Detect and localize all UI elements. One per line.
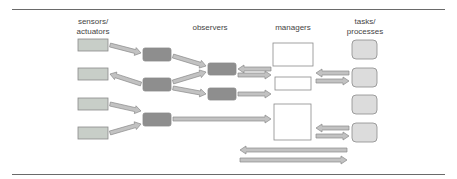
arrow xyxy=(238,90,271,98)
arrow xyxy=(172,54,206,68)
observer-node xyxy=(208,63,236,75)
arrow xyxy=(110,72,142,86)
arrow xyxy=(110,43,142,55)
arrow xyxy=(316,69,349,77)
arrow xyxy=(110,102,141,114)
task-node xyxy=(352,95,377,114)
architecture-diagram xyxy=(0,0,457,179)
task-node xyxy=(352,123,377,142)
observer-node xyxy=(143,48,171,61)
observer-node xyxy=(208,88,236,100)
observer-node xyxy=(143,113,171,126)
manager-node xyxy=(274,104,311,140)
observer-node xyxy=(143,78,171,91)
arrow xyxy=(109,122,141,135)
arrow xyxy=(240,146,347,154)
task-node xyxy=(352,68,377,87)
arrow xyxy=(172,70,206,84)
arrow xyxy=(316,124,349,132)
task-node xyxy=(352,40,377,59)
manager-node xyxy=(273,43,313,66)
sensor-node xyxy=(78,39,108,51)
sensor-node xyxy=(78,127,108,139)
manager-node xyxy=(275,77,311,90)
arrow xyxy=(316,77,349,85)
arrow xyxy=(173,86,206,97)
arrow xyxy=(316,132,349,140)
sensor-node xyxy=(78,68,108,80)
arrow xyxy=(240,156,347,164)
sensor-node xyxy=(78,98,108,110)
arrow xyxy=(173,115,271,123)
